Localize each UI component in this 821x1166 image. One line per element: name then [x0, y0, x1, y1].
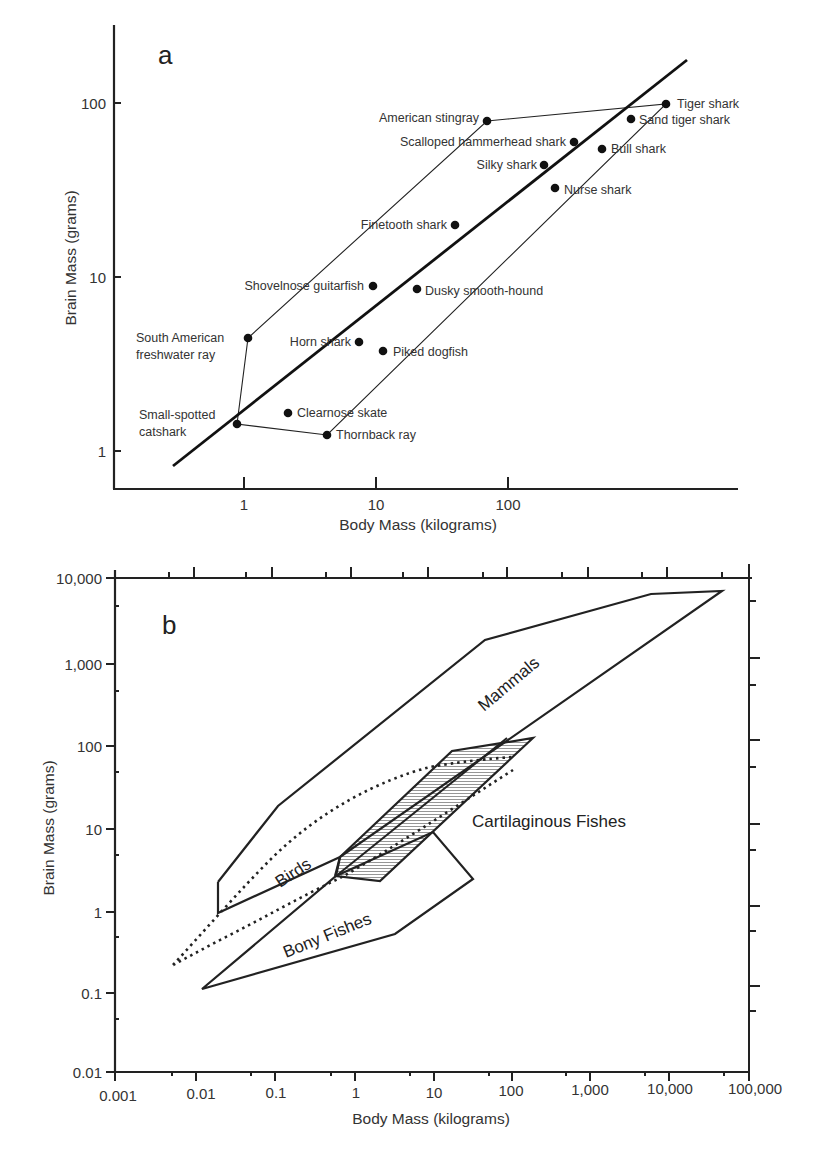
label-american-stingray: American stingray	[379, 111, 480, 125]
label-dusky-smooth-hound: Dusky smooth-hound	[425, 284, 543, 298]
label-cartilaginous-fishes: Cartilaginous Fishes	[472, 812, 626, 831]
chart-a-xtick-1: 1	[240, 496, 248, 513]
chart-a-envelope	[237, 104, 666, 435]
chart-a-y-label: Brain Mass (grams)	[62, 190, 79, 325]
point-finetooth-shark	[451, 221, 460, 230]
chart-b-ytick-10000: 10,000	[56, 570, 102, 587]
chart-b-xtick-100: 100	[498, 1082, 523, 1099]
chart-b-xtick-10: 10	[426, 1084, 443, 1101]
point-bull-shark	[598, 145, 607, 154]
chart-b-ytick-0.1: 0.1	[81, 985, 102, 1002]
point-clearnose-skate	[284, 409, 293, 418]
label-mammals: Mammals	[474, 653, 543, 715]
point-sand-tiger-shark	[627, 115, 636, 124]
chart-a-point-labels: American stingray Tiger shark Sand tiger…	[136, 97, 740, 442]
chart-b-ytick-100: 100	[77, 738, 102, 755]
point-thornback-ray	[323, 431, 332, 440]
chart-b-ytick-1: 1	[94, 904, 102, 921]
point-shovelnose-guitarfish	[369, 282, 378, 291]
point-nurse-shark	[551, 184, 560, 193]
label-horn-shark: Horn shark	[290, 335, 352, 349]
chart-a-ytick-1: 1	[98, 443, 106, 460]
label-scalloped-hammerhead: Scalloped hammerhead shark	[400, 135, 567, 149]
chart-a: 100 10 1 1 10 100 Body Mass (kilograms) …	[62, 25, 740, 533]
label-sand-tiger-shark: Sand tiger shark	[639, 113, 731, 127]
label-nurse-shark: Nurse shark	[564, 183, 632, 197]
region-cartilaginous-fishes	[336, 738, 533, 881]
chart-b-y-label: Brain Mass (grams)	[40, 760, 57, 895]
point-horn-shark	[355, 338, 364, 347]
chart-a-xtick-10: 10	[368, 496, 385, 513]
label-birds: Birds	[272, 854, 315, 891]
figure: 100 10 1 1 10 100 Body Mass (kilograms) …	[0, 0, 821, 1166]
label-bull-shark: Bull shark	[611, 142, 667, 156]
chart-b-xtick-1: 1	[352, 1084, 360, 1101]
point-small-spotted-catshark	[233, 420, 242, 429]
chart-b-xtick-10000: 10,000	[647, 1080, 693, 1097]
point-south-american-freshwater-ray	[244, 334, 253, 343]
label-silky-shark: Silky shark	[477, 158, 538, 172]
label-south-american-freshwater-ray: South Americanfreshwater ray	[136, 331, 224, 362]
chart-a-x-label: Body Mass (kilograms)	[339, 516, 497, 533]
chart-b-panel-letter: b	[162, 610, 176, 640]
chart-b-xtick-0.01: 0.01	[186, 1085, 215, 1102]
label-small-spotted-catshark: Small-spottedcatshark	[139, 408, 215, 439]
chart-a-points	[233, 100, 671, 440]
chart-b-ytick-10: 10	[85, 821, 102, 838]
point-silky-shark	[540, 161, 549, 170]
chart-b-xtick-1000: 1,000	[571, 1081, 609, 1098]
point-dusky-smooth-hound	[413, 285, 422, 294]
label-clearnose-skate: Clearnose skate	[297, 406, 387, 420]
chart-a-ytick-10: 10	[89, 269, 106, 286]
chart-b-ytick-0.01: 0.01	[73, 1064, 102, 1081]
label-piked-dogfish: Piked dogfish	[393, 345, 468, 359]
chart-b-xtick-100000: 100,000	[728, 1080, 782, 1097]
point-american-stingray	[483, 117, 492, 126]
chart-a-panel-letter: a	[158, 40, 173, 70]
point-piked-dogfish	[379, 347, 388, 356]
chart-b: 10,000 1,000 100 10 1 0.1 0.01 0.001 0.0…	[40, 564, 782, 1127]
point-scalloped-hammerhead	[570, 138, 579, 147]
region-bony-fishes	[202, 832, 473, 989]
label-thornback-ray: Thornback ray	[336, 428, 417, 442]
chart-b-x-label: Body Mass (kilograms)	[352, 1110, 510, 1127]
chart-a-ytick-100: 100	[81, 95, 106, 112]
chart-b-xtick-0.1: 0.1	[266, 1084, 287, 1101]
chart-a-xtick-100: 100	[495, 496, 520, 513]
point-tiger-shark	[662, 100, 671, 109]
chart-b-xtick-0.001: 0.001	[99, 1087, 137, 1104]
label-finetooth-shark: Finetooth shark	[361, 218, 448, 232]
label-shovelnose-guitarfish: Shovelnose guitarfish	[244, 279, 364, 293]
label-tiger-shark: Tiger shark	[677, 97, 740, 111]
chart-b-ytick-1000: 1,000	[64, 656, 102, 673]
